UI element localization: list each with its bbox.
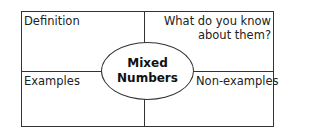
what-do-you-know-line1: What do you know <box>164 14 271 28</box>
center-term-line2: Numbers <box>117 71 178 86</box>
what-do-you-know-line2: about them? <box>164 28 271 42</box>
center-term-ellipse: Mixed Numbers <box>101 42 194 100</box>
quadrant-non-examples-label: Non-examples <box>196 74 279 88</box>
center-term-line1: Mixed <box>127 56 168 71</box>
quadrant-definition-label: Definition <box>24 14 80 28</box>
quadrant-what-do-you-know-label: What do you know about them? <box>164 14 271 42</box>
quadrant-examples-label: Examples <box>24 74 80 88</box>
